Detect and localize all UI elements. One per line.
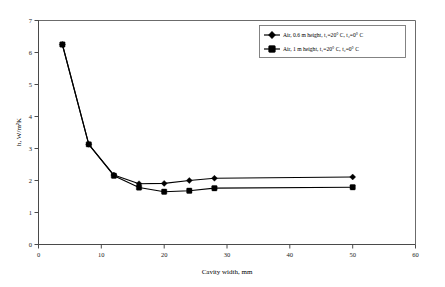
legend: Air, 0.6 m height, t₁=20° C, t₂=0° C Air… [260,26,406,58]
x-tick-label-10: 10 [98,251,105,258]
chart-figure: 0 1 2 3 4 5 6 7 0 10 20 30 40 50 60 [0,0,445,287]
data-point [86,142,91,147]
legend-marker-icon-1 [269,46,276,53]
data-point [350,185,355,190]
y-tick-label-3: 3 [29,145,32,152]
y-tick-label-1: 1 [29,209,32,216]
x-tick-label-0: 0 [37,251,40,258]
x-tick-label-20: 20 [161,251,168,258]
legend-box [260,26,406,58]
legend-label-0: Air, 0.6 m height, t₁=20° C, t₂=0° C [283,32,363,38]
line-chart: 0 1 2 3 4 5 6 7 0 10 20 30 40 50 60 [0,0,445,287]
data-point [136,185,141,190]
y-tick-label-5: 5 [29,81,32,88]
x-tick-label-30: 30 [224,251,231,258]
data-point [111,173,116,178]
legend-label-1: Air, 1 m height, t₁=20° C, t₂=0° C [283,46,359,52]
data-point [187,188,192,193]
x-tick-label-50: 50 [349,251,356,258]
x-tick-label-60: 60 [412,251,419,258]
y-axis-title: h, W/m²K [15,118,23,146]
x-axis-title: Cavity width, mm [202,268,253,276]
data-point [60,42,65,47]
data-point [161,189,166,194]
data-point [212,185,217,190]
y-tick-label-2: 2 [29,177,32,184]
y-tick-label-0: 0 [29,241,32,248]
x-tick-label-40: 40 [287,251,294,258]
